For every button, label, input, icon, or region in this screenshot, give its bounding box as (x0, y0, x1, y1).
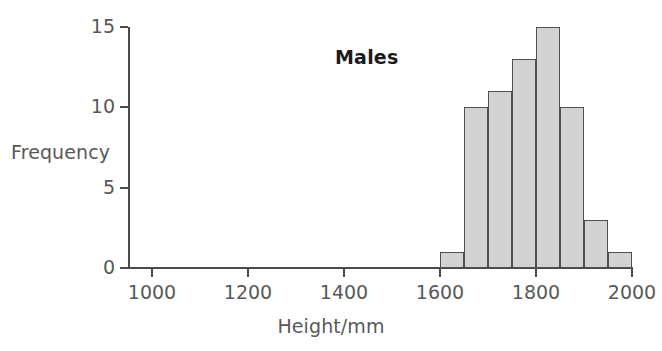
x-axis-line (128, 267, 633, 269)
x-axis-tick (439, 269, 441, 277)
y-axis-title: Frequency (11, 141, 110, 163)
y-axis-line (128, 27, 130, 269)
x-axis-tick-label: 2000 (592, 281, 662, 303)
histogram-bar (536, 27, 560, 268)
histogram-bar (584, 220, 608, 268)
x-axis-tick (631, 269, 633, 277)
histogram-bar (440, 252, 464, 268)
y-axis-tick (120, 267, 128, 269)
x-axis-tick-label: 1800 (496, 281, 576, 303)
histogram-bar (608, 252, 632, 268)
histogram-bar (488, 91, 512, 268)
x-axis-title: Height/mm (0, 315, 662, 337)
histogram-bar (560, 107, 584, 268)
y-axis-tick-label: 15 (55, 17, 115, 36)
histogram-figure: Frequency Males 051015100012001400160018… (0, 0, 662, 351)
histogram-bar (464, 107, 488, 268)
x-axis-tick (151, 269, 153, 277)
x-axis-tick (247, 269, 249, 277)
x-axis-tick (343, 269, 345, 277)
y-axis-tick-label: 5 (55, 178, 115, 197)
chart-title: Males (335, 46, 398, 68)
x-axis-tick (535, 269, 537, 277)
y-axis-tick-label: 0 (55, 258, 115, 277)
x-axis-tick-label: 1000 (112, 281, 192, 303)
x-axis-tick-label: 1400 (304, 281, 384, 303)
x-axis-tick-label: 1600 (400, 281, 480, 303)
y-axis-tick (120, 106, 128, 108)
y-axis-tick (120, 187, 128, 189)
x-axis-tick-label: 1200 (208, 281, 288, 303)
y-axis-tick-label: 10 (55, 97, 115, 116)
histogram-bar (512, 59, 536, 268)
y-axis-tick (120, 26, 128, 28)
